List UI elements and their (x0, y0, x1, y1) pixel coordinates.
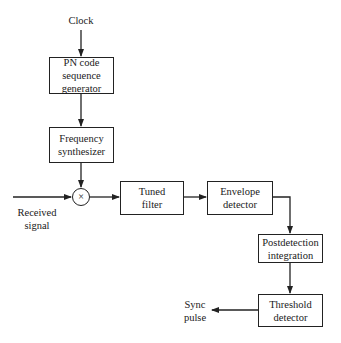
pn-line-3: generator (62, 82, 102, 95)
env-line-2: detector (220, 198, 260, 211)
received-signal-label: Received signal (12, 206, 62, 232)
frequency-synthesizer-block: Frequency synthesizer (49, 127, 114, 163)
env-line-1: Envelope (220, 185, 260, 198)
clock-label: Clock (61, 14, 101, 27)
arrow-env-to-post (273, 197, 290, 233)
tuned-line-1: Tuned (139, 185, 165, 198)
freq-line-2: synthesizer (58, 145, 105, 158)
pn-line-1: PN code (62, 56, 102, 69)
sync-pulse-label: Sync pulse (180, 298, 210, 324)
threshold-detector-block: Threshold detector (258, 294, 323, 327)
post-line-2: integration (262, 249, 319, 262)
envelope-detector-block: Envelope detector (207, 181, 273, 215)
tuned-filter-block: Tuned filter (120, 181, 184, 215)
mixer-multiply-icon: × (72, 188, 90, 206)
pn-code-generator-block: PN code sequence generator (49, 57, 114, 94)
tuned-line-2: filter (139, 198, 165, 211)
thresh-line-2: detector (269, 311, 312, 324)
connection-wires (0, 0, 341, 343)
freq-line-1: Frequency (58, 132, 105, 145)
postdetection-integration-block: Postdetection integration (258, 234, 323, 263)
post-line-1: Postdetection (262, 236, 319, 249)
thresh-line-1: Threshold (269, 298, 312, 311)
pn-line-2: sequence (62, 69, 102, 82)
